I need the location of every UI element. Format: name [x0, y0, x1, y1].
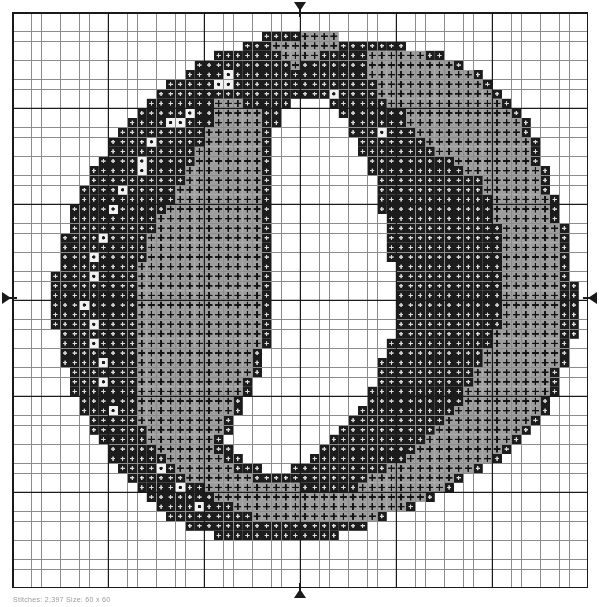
center-right-marker — [588, 292, 597, 304]
center-left-marker — [2, 292, 11, 304]
cross-stitch-chart-page: Stitches: 2,397 Size: 60 x 60 — [0, 0, 599, 607]
footer-caption: Stitches: 2,397 Size: 60 x 60 — [13, 594, 573, 606]
stitch-pattern-canvas[interactable] — [12, 12, 588, 588]
center-top-marker — [294, 2, 306, 11]
chart-grid-area[interactable] — [12, 12, 588, 588]
